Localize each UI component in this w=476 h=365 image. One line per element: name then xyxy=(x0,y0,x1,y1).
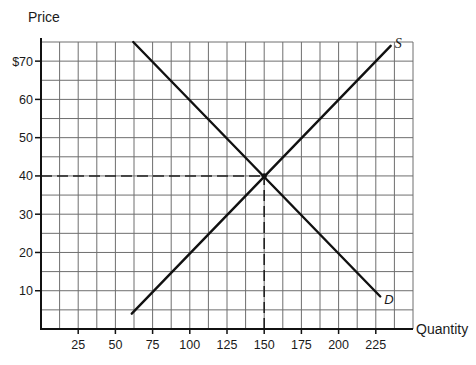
y-tick-label: 60 xyxy=(19,93,33,107)
x-tick-label: 150 xyxy=(254,338,275,352)
x-axis-title: Quantity xyxy=(416,321,468,337)
x-tick-label: 225 xyxy=(365,338,386,352)
y-tick-label: 50 xyxy=(19,131,33,145)
demand-curve-label: D xyxy=(384,292,393,307)
x-tick-label: 175 xyxy=(291,338,312,352)
x-tick-label: 200 xyxy=(328,338,349,352)
y-tick-label: 40 xyxy=(19,169,33,183)
y-tick-label: 30 xyxy=(19,208,33,222)
x-tick-label: 50 xyxy=(108,338,122,352)
x-tick-label: 25 xyxy=(71,338,85,352)
y-tick-label: $70 xyxy=(12,55,33,69)
equilibrium-guides xyxy=(41,173,267,329)
supply-curve xyxy=(132,46,391,314)
y-tick-label: 20 xyxy=(19,246,33,260)
x-tick-label: 100 xyxy=(179,338,200,352)
y-tick-label: 10 xyxy=(19,284,33,298)
supply-curve-label: S xyxy=(395,36,402,51)
x-tick-label: 75 xyxy=(146,338,160,352)
grid xyxy=(41,42,413,329)
y-axis-title: Price xyxy=(28,9,60,25)
supply-demand-chart: SD 255075100125150175200225102030405060$… xyxy=(0,0,476,365)
x-tick-label: 125 xyxy=(217,338,238,352)
